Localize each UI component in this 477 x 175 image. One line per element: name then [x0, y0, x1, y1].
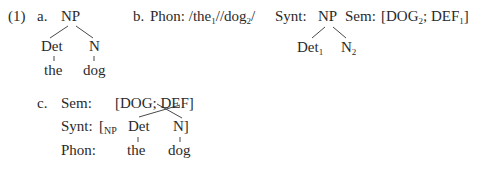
c-sem-value: [DOG; DEF] [115, 96, 194, 111]
tree-a-n: N [89, 39, 100, 54]
b-synt-n: N2 [341, 40, 356, 55]
tree-a-dog: dog [83, 63, 106, 78]
tree-a-root: NP [61, 9, 80, 24]
c-phon-dog: dog [168, 143, 191, 158]
b-phon: Phon: /the1//dog2/ [150, 9, 255, 24]
c-phon-label: Phon: [61, 143, 96, 158]
tree-a-det: Det [41, 39, 63, 54]
item-a-label: a. [37, 9, 47, 24]
b-synt-det: Det1 [297, 40, 323, 55]
c-synt-n: N] [173, 119, 189, 134]
b-sem-label: Sem: [345, 9, 376, 24]
b-synt-root: NP [318, 9, 337, 24]
example-number: (1) [8, 9, 26, 24]
c-synt-det: Det [128, 119, 150, 134]
tree-a-the: the [44, 63, 62, 78]
c-sem-label: Sem: [61, 96, 92, 111]
c-synt-label: Synt: [61, 119, 93, 134]
c-synt-open: [NP [99, 119, 117, 136]
b-sem-value: [DOG2; DEF1] [381, 9, 469, 24]
b-phon-label: Phon: [150, 8, 185, 24]
c-phon-the: the [127, 143, 145, 158]
item-b-label: b. [133, 9, 144, 24]
item-c-label: c. [37, 96, 47, 111]
b-synt-label: Synt: [275, 9, 307, 24]
